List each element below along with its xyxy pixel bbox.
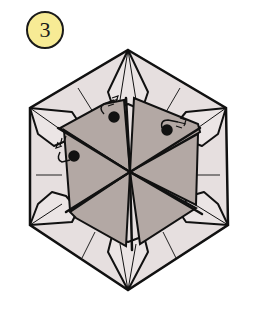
fold-dot-right (162, 125, 172, 135)
fold-dot-top (109, 112, 119, 122)
origami-diagram (0, 0, 254, 309)
fold-dot-left (69, 151, 79, 161)
